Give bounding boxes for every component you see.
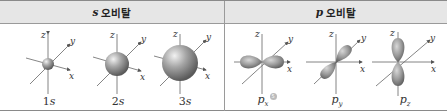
svg-text:z: z [389,28,395,38]
svg-text:x: x [205,71,210,81]
orbital-row: z y x 1s z y x 2s [0,24,447,111]
p-title: 오비탈 [326,5,356,20]
p-symbol: p [316,6,323,18]
svg-text:x: x [69,71,74,81]
column-divider [224,24,225,111]
orbital-px-sym: p [258,93,265,106]
s-orbital-header: s 오비탈 [0,1,225,23]
svg-text:y: y [287,34,294,44]
orbital-table: s 오비탈 p 오비탈 [0,0,447,111]
svg-text:z: z [328,29,334,39]
orbital-pz-label: pz [368,93,442,108]
orbital-pz-sym: p [400,93,407,106]
orbital-3s-label: 3s [148,95,222,108]
orbital-3s-num: 3 [179,95,186,108]
svg-text:y: y [360,33,367,43]
svg-text:y: y [205,32,212,42]
orbital-2s-label: 2s [81,95,155,108]
svg-text:x: x [360,64,365,74]
orbital-1s-label: 1s [12,95,86,108]
orbital-px-label: px5 [230,93,304,108]
orbital-2s: z y x 2s [81,24,155,111]
orbital-py-sym: p [331,93,338,106]
orbital-3s-sym: s [186,95,192,108]
orbital-py-label: py [300,93,374,108]
orbital-1s: z y x 1s [12,24,86,111]
orbital-px-sub: x [265,100,269,108]
table-header: s 오비탈 p 오비탈 [0,1,447,24]
orbital-2s-num: 2 [112,95,119,108]
svg-text:y: y [429,33,436,43]
orbital-px: z y x px5 [230,24,304,111]
orbital-pz-sub: z [407,100,411,108]
s-title: 오비탈 [101,5,131,20]
orbital-1s-sym: s [50,95,56,108]
orbital-py: z y x py [300,24,374,111]
orbital-3s: z y x 3s [148,24,222,111]
svg-text:z: z [172,29,178,39]
orbital-1s-num: 1 [43,95,50,108]
p-orbital-header: p 오비탈 [225,1,447,23]
svg-text:x: x [140,72,145,82]
orbital-2s-sym: s [119,95,125,108]
footnote-badge: 5 [270,93,277,100]
svg-text:x: x [287,64,292,74]
svg-text:y: y [140,34,147,44]
s-symbol: s [93,6,99,18]
svg-text:z: z [109,30,115,40]
svg-text:x: x [431,64,436,74]
svg-text:z: z [254,29,260,39]
svg-text:y: y [69,36,76,46]
svg-text:z: z [40,30,46,40]
orbital-pz: z y x pz [368,24,442,111]
orbital-py-sub: y [339,100,343,108]
